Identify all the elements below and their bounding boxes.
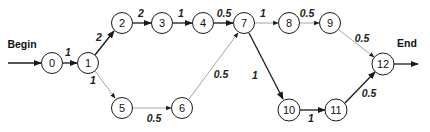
weight-4-7: 0.5 xyxy=(217,7,232,19)
node-10: 10 xyxy=(278,99,300,121)
weight-9-12: 0.5 xyxy=(355,32,370,44)
edge-7-10 xyxy=(249,33,283,99)
weight-6-7: 0.5 xyxy=(214,68,229,80)
edge-1-5 xyxy=(95,71,115,98)
node-0: 0 xyxy=(42,53,63,74)
begin-label: Begin xyxy=(7,38,36,50)
weight-1-5: 1 xyxy=(90,74,96,86)
weight-1-2: 2 xyxy=(95,31,102,43)
edge-6-7 xyxy=(189,33,238,99)
weight-0-1: 1 xyxy=(65,46,71,58)
weight-7-10: 1 xyxy=(252,69,258,81)
node-7: 7 xyxy=(234,13,255,34)
svg-text:5: 5 xyxy=(119,102,125,114)
weight-11-12: 0.5 xyxy=(362,87,377,99)
end-label: End xyxy=(397,37,417,49)
node-3: 3 xyxy=(152,13,173,34)
node-12: 12 xyxy=(372,53,394,75)
node-11: 11 xyxy=(325,99,347,121)
weight-7-8: 1 xyxy=(260,7,266,19)
svg-text:12: 12 xyxy=(377,58,389,70)
node-6: 6 xyxy=(172,98,193,119)
svg-text:11: 11 xyxy=(330,104,341,116)
svg-text:6: 6 xyxy=(179,102,185,114)
weight-3-4: 1 xyxy=(178,7,184,19)
svg-text:0: 0 xyxy=(49,57,55,69)
svg-text:3: 3 xyxy=(159,17,165,29)
svg-text:4: 4 xyxy=(200,17,206,29)
node-9: 9 xyxy=(320,13,341,34)
svg-text:9: 9 xyxy=(327,17,333,29)
node-5: 5 xyxy=(112,98,133,119)
svg-text:7: 7 xyxy=(241,17,247,29)
svg-text:8: 8 xyxy=(286,17,292,29)
svg-text:1: 1 xyxy=(85,57,91,69)
node-4: 4 xyxy=(193,13,214,34)
weight-5-6: 0.5 xyxy=(147,112,162,124)
node-8: 8 xyxy=(279,13,300,34)
node-1: 1 xyxy=(78,53,99,74)
weight-2-3: 2 xyxy=(137,7,144,19)
weight-8-9: 0.5 xyxy=(300,7,315,19)
svg-text:10: 10 xyxy=(283,104,295,116)
weight-10-11: 1 xyxy=(308,112,314,124)
node-2: 2 xyxy=(112,13,133,34)
network-diagram: Begin End 1 2 1 2 1 0.5 0.5 0.5 1 1 0.5 … xyxy=(0,0,430,132)
svg-text:2: 2 xyxy=(119,17,125,29)
